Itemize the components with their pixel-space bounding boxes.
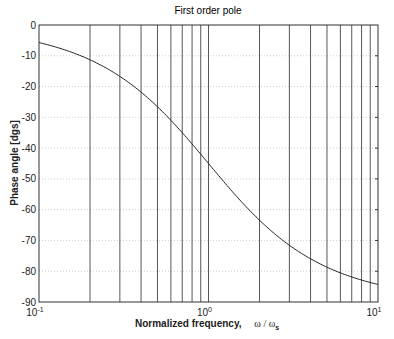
x-tick-labels: 10-1100101 bbox=[26, 306, 381, 318]
y-tick-label: -80 bbox=[22, 266, 37, 277]
y-axis-label: Phase angle [dgs] bbox=[9, 120, 20, 206]
y-tick-label: -40 bbox=[22, 143, 37, 154]
x-tick-label: 101 bbox=[366, 306, 381, 318]
y-tick-label: -20 bbox=[22, 81, 37, 92]
y-tick-label: -60 bbox=[22, 204, 37, 215]
y-tick-label: 0 bbox=[30, 20, 36, 31]
x-axis-label: Normalized frequency, ω / ωs bbox=[135, 318, 279, 331]
y-tick-label: -50 bbox=[22, 173, 37, 184]
y-tick-label: -90 bbox=[22, 297, 37, 308]
x-tick-label: 100 bbox=[197, 306, 212, 318]
y-tick-label: -10 bbox=[22, 50, 37, 61]
y-tick-label: -70 bbox=[22, 235, 37, 246]
chart-title: First order pole bbox=[174, 5, 242, 16]
y-tick-labels: 0-10-20-30-40-50-60-70-80-90 bbox=[22, 20, 37, 308]
x-axis-label-text: Normalized frequency, bbox=[135, 318, 242, 329]
y-tick-label: -30 bbox=[22, 112, 37, 123]
x-tick-label: 10-1 bbox=[26, 306, 43, 318]
x-axis-label-subscript: s bbox=[275, 324, 279, 331]
x-axis-label-math: ω / ω bbox=[254, 318, 275, 329]
phase-plot: First order pole 0-10-20-30-40-50-60-70-… bbox=[0, 0, 394, 339]
